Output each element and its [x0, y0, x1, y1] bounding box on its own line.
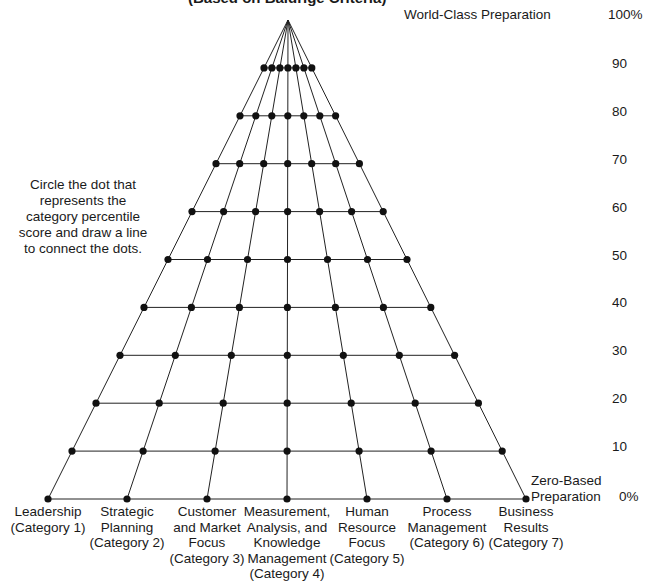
score-dot[interactable] [316, 208, 323, 215]
score-dot[interactable] [220, 208, 227, 215]
level-label: 70 [612, 152, 627, 167]
score-dot[interactable] [522, 495, 529, 502]
zero-label-1: Zero-Based [531, 473, 602, 488]
score-dot[interactable] [252, 112, 259, 119]
score-dot[interactable] [68, 448, 75, 455]
top-percent: 100% [608, 7, 643, 22]
score-dot[interactable] [316, 112, 323, 119]
score-dot[interactable] [276, 64, 283, 71]
score-dot[interactable] [156, 400, 163, 407]
category-label: ProcessManagement(Category 6) [408, 504, 487, 551]
score-dot[interactable] [188, 304, 195, 311]
score-dot[interactable] [332, 304, 339, 311]
score-dot[interactable] [284, 304, 291, 311]
score-dot[interactable] [332, 112, 339, 119]
score-dot[interactable] [252, 208, 259, 215]
score-dot[interactable] [44, 495, 51, 502]
level-label: 60 [612, 200, 627, 215]
score-dot[interactable] [499, 448, 506, 455]
score-dot[interactable] [364, 256, 371, 263]
score-dot[interactable] [451, 352, 458, 359]
category-label: Measurement,Analysis, andKnowledgeManage… [244, 504, 330, 582]
score-dot[interactable] [268, 64, 275, 71]
zero-label-2: Preparation [531, 489, 601, 504]
category-label: Leadership(Category 1) [10, 504, 85, 535]
level-label: 50 [612, 248, 627, 263]
score-dot[interactable] [284, 112, 291, 119]
score-dot[interactable] [308, 64, 315, 71]
score-dot[interactable] [284, 256, 291, 263]
score-dot[interactable] [244, 256, 251, 263]
score-dot[interactable] [396, 352, 403, 359]
score-dot[interactable] [236, 112, 243, 119]
diagram-title: (Based on Baldrige Criteria) [188, 0, 386, 6]
score-dot[interactable] [284, 160, 291, 167]
top-label: World-Class Preparation [404, 7, 551, 22]
category-label: HumanResourceFocus(Category 5) [329, 504, 404, 566]
score-dot[interactable] [308, 160, 315, 167]
score-dot[interactable] [204, 256, 211, 263]
score-dot[interactable] [284, 448, 291, 455]
score-dot[interactable] [380, 208, 387, 215]
level-label: 80 [612, 104, 627, 119]
category-label: StrategicPlanning(Category 2) [89, 504, 164, 551]
score-dot[interactable] [236, 160, 243, 167]
score-dot[interactable] [284, 400, 291, 407]
score-dot[interactable] [123, 495, 130, 502]
score-dot[interactable] [412, 400, 419, 407]
score-dot[interactable] [348, 400, 355, 407]
score-dot[interactable] [427, 304, 434, 311]
score-dot[interactable] [172, 352, 179, 359]
score-dot[interactable] [300, 64, 307, 71]
score-dot[interactable] [228, 352, 235, 359]
score-dot[interactable] [284, 64, 291, 71]
score-dot[interactable] [475, 400, 482, 407]
score-dot[interactable] [380, 304, 387, 311]
score-dot[interactable] [188, 208, 195, 215]
score-dot[interactable] [356, 448, 363, 455]
score-dot[interactable] [284, 208, 291, 215]
score-dot[interactable] [268, 112, 275, 119]
score-dot[interactable] [236, 304, 243, 311]
score-dot[interactable] [203, 495, 210, 502]
category-label: Customerand MarketFocus(Category 3) [169, 504, 244, 566]
score-dot[interactable] [283, 495, 290, 502]
zero-percent: 0% [619, 489, 639, 504]
score-dot[interactable] [212, 160, 219, 167]
level-label: 90 [612, 56, 627, 71]
score-dot[interactable] [356, 160, 363, 167]
score-dot[interactable] [348, 208, 355, 215]
score-dot[interactable] [116, 352, 123, 359]
score-dot[interactable] [140, 448, 147, 455]
level-label: 30 [612, 343, 627, 358]
score-dot[interactable] [324, 256, 331, 263]
score-dot[interactable] [292, 64, 299, 71]
level-label: 40 [612, 295, 627, 310]
score-dot[interactable] [140, 304, 147, 311]
category-label: BusinessResults(Category 7) [488, 504, 563, 551]
score-dot[interactable] [164, 256, 171, 263]
score-dot[interactable] [332, 160, 339, 167]
level-label: 20 [612, 391, 627, 406]
score-dot[interactable] [92, 400, 99, 407]
score-dot[interactable] [300, 112, 307, 119]
score-dot[interactable] [363, 495, 370, 502]
score-dot[interactable] [260, 160, 267, 167]
score-dot[interactable] [220, 400, 227, 407]
score-dot[interactable] [340, 352, 347, 359]
score-dot[interactable] [403, 256, 410, 263]
score-dot[interactable] [212, 448, 219, 455]
score-dot[interactable] [428, 448, 435, 455]
score-dot[interactable] [443, 495, 450, 502]
score-dot[interactable] [260, 64, 267, 71]
instructions: Circle the dot that represents the categ… [18, 177, 148, 257]
score-dot[interactable] [284, 352, 291, 359]
level-label: 10 [612, 439, 627, 454]
